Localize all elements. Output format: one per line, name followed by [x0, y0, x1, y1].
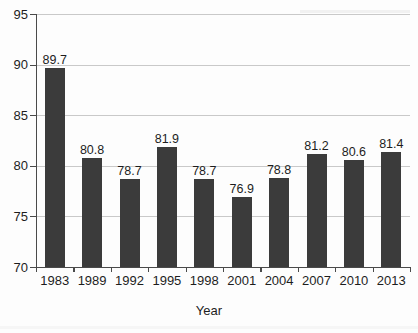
- bar-value-label: 78.7: [184, 165, 224, 178]
- bar-value-label: 76.9: [222, 183, 262, 196]
- bar: [45, 68, 65, 267]
- bar: [232, 197, 252, 267]
- chart-figure: 707580859095 89.780.878.781.978.776.978.…: [0, 0, 418, 333]
- y-axis-tick: [30, 216, 36, 217]
- bar-value-label: 81.4: [371, 138, 411, 151]
- bar: [307, 154, 327, 267]
- y-axis-tick-label: 80: [2, 159, 28, 172]
- bar: [381, 152, 401, 267]
- x-axis-title: Year: [0, 303, 418, 318]
- bar-value-label: 81.9: [147, 133, 187, 146]
- scan-artifact: [0, 326, 418, 329]
- bar-value-label: 78.8: [259, 164, 299, 177]
- bar: [82, 158, 102, 267]
- bar: [120, 179, 140, 267]
- y-axis-tick-label: 70: [2, 261, 28, 274]
- scan-artifact: [300, 10, 410, 13]
- bar: [194, 179, 214, 267]
- x-axis-tick-label: 2013: [369, 274, 413, 287]
- x-axis-tick: [36, 267, 37, 272]
- y-axis-tick: [30, 166, 36, 167]
- bar-value-label: 80.6: [334, 146, 374, 159]
- bar: [269, 178, 289, 267]
- x-axis-tick: [410, 267, 411, 272]
- x-axis-tick: [373, 267, 374, 272]
- bar: [344, 160, 364, 267]
- bar-value-label: 89.7: [35, 54, 75, 67]
- bar-value-label: 81.2: [297, 140, 337, 153]
- x-axis-tick: [298, 267, 299, 272]
- x-axis-tick: [111, 267, 112, 272]
- bar-value-label: 80.8: [72, 144, 112, 157]
- x-axis-tick: [260, 267, 261, 272]
- gridline: [36, 65, 410, 66]
- y-axis-tick: [30, 14, 36, 15]
- y-axis-tick: [30, 115, 36, 116]
- y-axis-tick-label: 85: [2, 109, 28, 122]
- x-axis-tick: [186, 267, 187, 272]
- bar: [157, 147, 177, 267]
- x-axis-tick: [73, 267, 74, 272]
- x-axis-tick: [335, 267, 336, 272]
- gridline: [36, 14, 410, 15]
- y-axis-tick-label: 90: [2, 58, 28, 71]
- y-axis-tick-label: 95: [2, 8, 28, 21]
- y-axis-tick-labels: 707580859095: [0, 0, 28, 333]
- bar-value-label: 78.7: [110, 165, 150, 178]
- y-axis-line: [36, 14, 37, 268]
- x-axis-tick: [223, 267, 224, 272]
- y-axis-tick-label: 75: [2, 210, 28, 223]
- gridline: [36, 115, 410, 116]
- x-axis-tick: [148, 267, 149, 272]
